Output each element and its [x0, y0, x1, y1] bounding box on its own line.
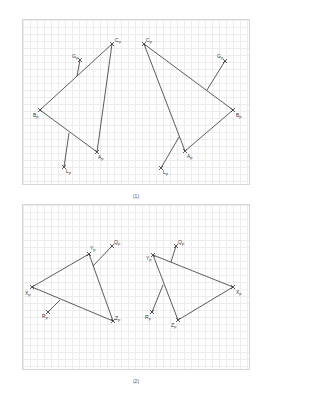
vertex-b-label: BP [236, 112, 242, 120]
vertex-z-marker [176, 318, 180, 322]
point-g-label: GP [72, 53, 79, 61]
point-r-label: RP [145, 314, 152, 322]
vertex-y-label: YP [90, 245, 96, 253]
point-l-label: LP [163, 169, 169, 177]
point-g-marker [223, 59, 227, 63]
geometry-drawing: CPBPAPGPLPCPBPAPGPLPYPXPZPQPRPYPXPZPQPRP [0, 0, 309, 396]
vertex-b-label: BP [33, 112, 39, 120]
panel-1-caption: (1) [121, 193, 151, 199]
point-l-label: LP [66, 168, 72, 176]
point-r-marker [46, 310, 50, 314]
segment-to-g [207, 61, 225, 90]
vertex-z-label: ZP [115, 315, 121, 323]
vertex-x-marker [231, 285, 235, 289]
vertex-x-label: XP [25, 290, 31, 298]
segment-to-q [171, 246, 176, 262]
vertex-z-label: ZP [171, 322, 177, 330]
vertex-a-label: AP [187, 153, 193, 161]
vertex-x-label: XP [236, 289, 242, 297]
vertex-c-label: CP [146, 37, 153, 45]
segment-to-l [64, 133, 69, 167]
segment-to-q [93, 246, 112, 266]
vertex-c-label: CP [115, 37, 122, 45]
vertex-b-marker [38, 108, 42, 112]
vertex-x-marker [30, 285, 34, 289]
vertex-b-marker [231, 108, 235, 112]
panel-2-triangle-right [153, 255, 233, 320]
vertex-y-marker [151, 253, 155, 257]
panel-1-triangle-right [144, 44, 233, 151]
point-q-label: QP [178, 239, 185, 247]
point-q-label: QP [114, 239, 121, 247]
vertex-a-label: AP [98, 154, 104, 162]
panel-2-caption: (2) [121, 378, 151, 384]
point-r-label: RP [42, 313, 49, 321]
panel-2-triangle-left [32, 254, 113, 321]
segment-to-l [161, 137, 179, 168]
point-g-label: GP [217, 53, 224, 61]
segment-to-r [152, 285, 163, 312]
point-r-marker [150, 310, 154, 314]
vertex-y-marker [87, 252, 91, 256]
